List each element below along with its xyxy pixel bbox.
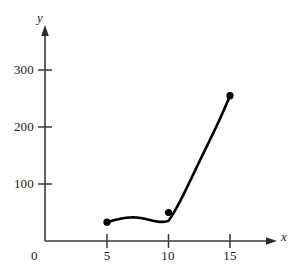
x-tick-label-15: 15 xyxy=(215,248,245,264)
data-point-markers xyxy=(103,92,233,226)
y-tick-label-300: 300 xyxy=(2,62,34,78)
x-axis-label: x xyxy=(281,229,287,245)
plot-area xyxy=(0,0,296,277)
y-axis-label: y xyxy=(37,10,43,26)
figure-container: 300 200 100 5 10 15 0 y x xyxy=(0,0,296,277)
data-curve xyxy=(107,96,230,223)
y-axis xyxy=(41,25,49,241)
y-tick-label-200: 200 xyxy=(2,119,34,135)
data-point xyxy=(165,209,172,216)
x-tick-label-10: 10 xyxy=(153,248,183,264)
origin-label: 0 xyxy=(31,248,38,264)
y-tick-label-100: 100 xyxy=(2,176,34,192)
data-point xyxy=(226,92,233,99)
data-point xyxy=(103,219,110,226)
x-axis xyxy=(45,237,277,244)
x-tick-label-5: 5 xyxy=(92,248,122,264)
